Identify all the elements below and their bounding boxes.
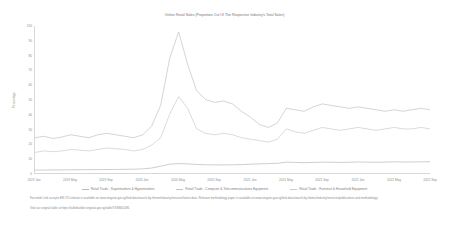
series-line-3 [35, 97, 430, 153]
y-axis-ticks: 0102030405060708090100 [18, 26, 34, 174]
y-axis-tick-label: 60 [28, 83, 32, 87]
y-axis-tick-label: 90 [28, 39, 32, 43]
legend-label: Retail Trade - Furniture & Household Equ… [299, 187, 367, 191]
plot-wrapper: Percentage 0102030405060708090100 [18, 26, 430, 174]
y-axis-tick-label: 50 [28, 98, 32, 102]
chart-title: Online Retail Sales (Proportion Out Of T… [0, 13, 449, 18]
y-axis-tick-label: 20 [28, 142, 32, 146]
x-axis-tick-label: 2019 Sep [99, 178, 113, 182]
legend-item-3[interactable]: Retail Trade - Furniture & Household Equ… [290, 187, 367, 191]
series-line-1 [35, 162, 430, 170]
x-axis-tick-label: 2021 Jan [243, 178, 256, 182]
chart-page: Online Retail Sales (Proportion Out Of T… [0, 0, 449, 226]
chart-legend: Retail Trade - Supermarkets & Hypermarke… [0, 187, 449, 191]
legend-label: Retail Trade - Computer & Telecommunicat… [185, 187, 268, 191]
y-axis-tick-label: 100 [27, 24, 32, 28]
y-axis-title: Percentage [12, 92, 16, 108]
x-axis-tick-label: 2019 May [63, 178, 77, 182]
y-axis-tick-label: 40 [28, 113, 32, 117]
footnotes: Facsimile Link accepts EN-ITU release is… [30, 196, 422, 212]
x-axis-tick-label: 2019 Jan [27, 178, 40, 182]
x-axis-tick-label: 2020 Jan [135, 178, 148, 182]
y-axis-tick-label: 30 [28, 128, 32, 132]
footnote-source: Facsimile Link accepts EN-ITU release is… [30, 196, 422, 200]
legend-swatch-icon [176, 189, 183, 190]
legend-swatch-icon [82, 189, 89, 190]
x-axis-tick-label: 2022 Jan [351, 178, 364, 182]
y-axis-tick-label: 10 [28, 157, 32, 161]
plot-area [34, 26, 430, 174]
legend-label: Retail Trade - Supermarkets & Hypermarke… [91, 187, 155, 191]
legend-swatch-icon [290, 189, 297, 190]
x-axis-tick-label: 2021 Sep [315, 178, 329, 182]
line-chart-svg [35, 26, 430, 173]
series-line-2 [35, 32, 430, 139]
x-axis-tick-label: 2021 May [279, 178, 293, 182]
x-axis-tick-label: 2022 Sep [423, 178, 437, 182]
legend-item-2[interactable]: Retail Trade - Computer & Telecommunicat… [176, 187, 268, 191]
x-axis-tick-label: 2020 May [171, 178, 185, 182]
x-axis-tick-label: 2020 Sep [207, 178, 221, 182]
y-axis-tick-label: 80 [28, 54, 32, 58]
x-axis-tick-label: 2022 May [387, 178, 401, 182]
footnote-visualisation: Visit our original table at https://tabl… [30, 206, 422, 210]
x-axis-ticks: 2019 Jan2019 May2019 Sep2020 Jan2020 May… [34, 178, 430, 186]
legend-item-1[interactable]: Retail Trade - Supermarkets & Hypermarke… [82, 187, 155, 191]
y-axis-tick-label: 70 [28, 68, 32, 72]
y-axis-tick-label: 0 [30, 172, 32, 176]
